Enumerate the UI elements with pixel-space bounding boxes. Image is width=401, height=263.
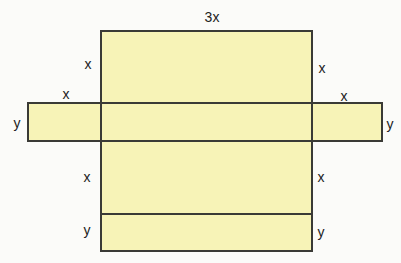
label-bottom-right-side: y	[318, 225, 325, 239]
wing-top-edge	[27, 102, 383, 104]
label-bottom-left-side: y	[84, 223, 91, 237]
label-lower-left-side: x	[84, 170, 91, 184]
label-top-width: 3x	[205, 10, 220, 24]
label-top-right-side: x	[319, 61, 326, 75]
label-left-wing-side: y	[14, 116, 21, 130]
wing-bottom-edge	[27, 140, 383, 142]
label-lower-right-side: x	[318, 170, 325, 184]
label-left-wing-top: x	[63, 87, 70, 101]
label-top-left-side: x	[85, 57, 92, 71]
bottom-face-divider	[100, 213, 313, 215]
label-right-wing-side: y	[387, 117, 394, 131]
diagram-canvas: 3x x x x x y y x x y y	[0, 0, 401, 263]
label-right-wing-top: x	[341, 89, 348, 103]
